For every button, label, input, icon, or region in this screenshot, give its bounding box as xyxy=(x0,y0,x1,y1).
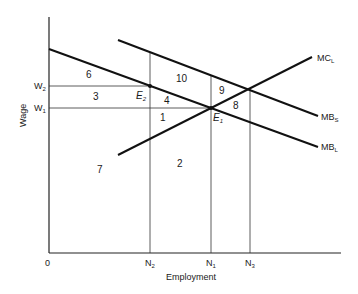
e1-point xyxy=(209,106,213,110)
area-9: 9 xyxy=(219,86,225,96)
area-3: 3 xyxy=(93,92,99,102)
e2-label: E2 xyxy=(136,91,146,104)
area-8: 8 xyxy=(233,101,239,111)
diagram-lines xyxy=(0,0,358,294)
area-6: 6 xyxy=(86,70,92,80)
area-4: 4 xyxy=(164,96,170,106)
e2-point xyxy=(148,84,152,88)
area-7: 7 xyxy=(97,165,103,175)
mb-l-curve xyxy=(49,49,318,147)
mc-l-curve xyxy=(118,57,312,155)
mb-s-label: MBS xyxy=(321,112,339,125)
w2-label: W2 xyxy=(34,81,46,94)
origin-label: 0 xyxy=(45,258,50,268)
w1-label: W1 xyxy=(34,103,46,116)
area-10: 10 xyxy=(176,74,187,84)
area-1: 1 xyxy=(160,113,166,123)
area-2: 2 xyxy=(177,159,183,169)
labor-market-diagram: MCL MBS MBL W2 W1 Wage 0 N2 N1 N3 Employ… xyxy=(0,0,358,294)
n3-label: N3 xyxy=(245,258,255,271)
y-axis-title: Wage xyxy=(18,104,28,127)
n1-label: N1 xyxy=(206,258,216,271)
e1-label: E1 xyxy=(213,113,223,126)
x-axis-title: Employment xyxy=(166,272,216,282)
mb-l-label: MBL xyxy=(321,142,338,155)
mc-l-label: MCL xyxy=(317,53,334,66)
n2-label: N2 xyxy=(145,258,155,271)
